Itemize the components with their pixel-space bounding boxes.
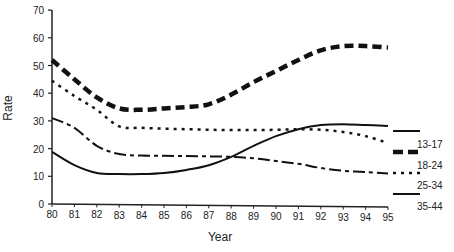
legend: 13-1718-2425-3435-44 xyxy=(393,131,443,212)
x-tick-label: 86 xyxy=(181,210,193,221)
x-tick-label: 80 xyxy=(46,209,58,220)
x-tick-label: 88 xyxy=(226,211,238,222)
y-axis-label: Rate xyxy=(1,95,15,121)
y-tick-label: 60 xyxy=(33,33,45,44)
legend-label: 18-24 xyxy=(417,160,443,171)
x-tick-label: 92 xyxy=(315,211,327,222)
x-tick-label: 91 xyxy=(293,211,305,222)
y-tick-label: 10 xyxy=(33,171,45,182)
series-lines xyxy=(52,46,388,175)
x-axis-line xyxy=(52,204,388,207)
y-tick-label: 0 xyxy=(38,199,44,210)
legend-label: 35-44 xyxy=(417,201,443,212)
y-tick-label: 30 xyxy=(33,116,45,127)
series-line-25-34 xyxy=(52,81,388,143)
legend-label: 25-34 xyxy=(417,180,443,191)
x-tick-label: 85 xyxy=(158,210,170,221)
y-tick-label: 50 xyxy=(33,61,45,72)
x-tick-label: 95 xyxy=(382,212,394,223)
y-tick-label: 20 xyxy=(33,144,45,155)
x-tick-label: 84 xyxy=(136,210,148,221)
axes: 0102030405060708081828384858687888990919… xyxy=(33,5,394,223)
x-tick-label: 87 xyxy=(203,210,215,221)
x-tick-label: 93 xyxy=(338,212,350,223)
y-tick-label: 70 xyxy=(33,5,45,16)
x-tick-label: 94 xyxy=(360,212,372,223)
x-axis-label: Year xyxy=(208,230,232,244)
series-line-18-24 xyxy=(52,46,388,110)
x-tick-label: 81 xyxy=(69,209,81,220)
x-tick-label: 90 xyxy=(270,211,282,222)
x-tick-label: 89 xyxy=(248,211,260,222)
y-tick-label: 40 xyxy=(33,88,45,99)
line-chart: 0102030405060708081828384858687888990919… xyxy=(0,0,454,252)
x-tick-label: 83 xyxy=(114,210,126,221)
series-line-35-44 xyxy=(52,118,388,173)
x-tick-label: 82 xyxy=(91,209,103,220)
legend-label: 13-17 xyxy=(417,139,443,150)
